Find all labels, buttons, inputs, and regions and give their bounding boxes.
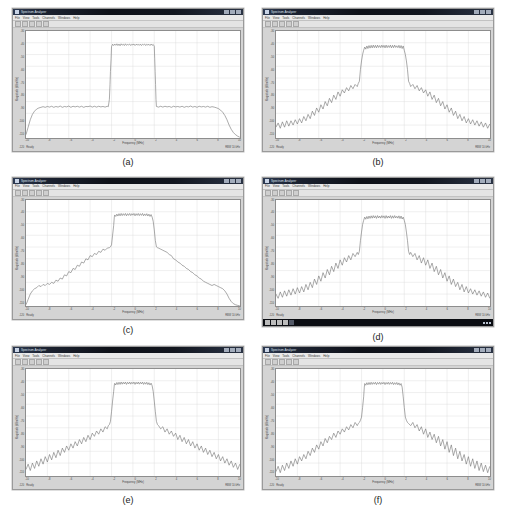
toolbar-b[interactable] — [263, 21, 493, 28]
trace-canvas-c[interactable] — [25, 199, 241, 308]
maximize-icon[interactable] — [230, 10, 235, 14]
window-controls[interactable] — [474, 179, 491, 183]
window-controls[interactable] — [224, 10, 241, 14]
window-controls[interactable] — [474, 10, 491, 14]
open-icon[interactable] — [265, 359, 271, 365]
browser-icon[interactable] — [277, 320, 282, 325]
menu-item-help[interactable]: Help — [73, 16, 79, 20]
trace-canvas-e[interactable] — [25, 368, 241, 477]
menu-item-channels[interactable]: Channels — [292, 184, 305, 188]
start-orb-icon[interactable] — [265, 320, 270, 325]
menu-item-view[interactable]: View — [273, 184, 279, 188]
menu-item-file[interactable]: File — [15, 354, 20, 358]
trace-canvas-a[interactable] — [25, 30, 241, 139]
minimize-icon[interactable] — [474, 179, 479, 183]
spectrum-analyzer-window-a[interactable]: Spectrum Analyzer File View Tools Channe… — [12, 8, 244, 152]
menu-item-windows[interactable]: Windows — [308, 16, 320, 20]
print-icon[interactable] — [279, 359, 285, 365]
explorer-icon[interactable] — [271, 320, 276, 325]
menu-item-windows[interactable]: Windows — [308, 184, 320, 188]
marker-icon[interactable] — [293, 190, 299, 196]
print-icon[interactable] — [29, 190, 35, 196]
save-icon[interactable] — [22, 21, 28, 27]
open-icon[interactable] — [15, 359, 21, 365]
menu-item-file[interactable]: File — [15, 184, 20, 188]
print-icon[interactable] — [29, 21, 35, 27]
toolbar-e[interactable] — [13, 359, 243, 366]
spectrum-analyzer-window-d[interactable]: Spectrum Analyzer File View Tools Channe… — [262, 177, 494, 328]
zoom-icon[interactable] — [286, 21, 292, 27]
trace-canvas-d[interactable] — [275, 199, 491, 308]
minimize-icon[interactable] — [474, 10, 479, 14]
menu-item-view[interactable]: View — [273, 354, 279, 358]
menu-item-channels[interactable]: Channels — [292, 354, 305, 358]
windows-taskbar[interactable] — [263, 319, 493, 326]
close-icon[interactable] — [236, 179, 241, 183]
save-icon[interactable] — [22, 359, 28, 365]
menu-item-view[interactable]: View — [23, 16, 29, 20]
menu-item-tools[interactable]: Tools — [32, 16, 39, 20]
menu-item-view[interactable]: View — [23, 354, 29, 358]
menu-item-help[interactable]: Help — [73, 354, 79, 358]
menu-item-file[interactable]: File — [265, 354, 270, 358]
save-icon[interactable] — [22, 190, 28, 196]
minimize-icon[interactable] — [474, 348, 479, 352]
toolbar-f[interactable] — [263, 359, 493, 366]
menu-item-windows[interactable]: Windows — [58, 184, 70, 188]
close-icon[interactable] — [236, 10, 241, 14]
zoom-icon[interactable] — [286, 359, 292, 365]
save-icon[interactable] — [272, 21, 278, 27]
menu-item-tools[interactable]: Tools — [32, 184, 39, 188]
zoom-icon[interactable] — [36, 359, 42, 365]
spectrum-analyzer-window-f[interactable]: Spectrum Analyzer File View Tools Channe… — [262, 346, 494, 490]
minimize-icon[interactable] — [224, 179, 229, 183]
menu-item-windows[interactable]: Windows — [308, 354, 320, 358]
toolbar-a[interactable] — [13, 21, 243, 28]
zoom-icon[interactable] — [286, 190, 292, 196]
clock-icon[interactable] — [489, 322, 491, 324]
marker-icon[interactable] — [43, 359, 49, 365]
menu-item-tools[interactable]: Tools — [282, 16, 289, 20]
trace-canvas-b[interactable] — [275, 30, 491, 139]
open-icon[interactable] — [265, 190, 271, 196]
open-icon[interactable] — [265, 21, 271, 27]
spectrum-analyzer-window-e[interactable]: Spectrum Analyzer File View Tools Channe… — [12, 346, 244, 490]
menu-item-file[interactable]: File — [265, 16, 270, 20]
window-controls[interactable] — [474, 348, 491, 352]
print-icon[interactable] — [29, 359, 35, 365]
print-icon[interactable] — [279, 190, 285, 196]
zoom-icon[interactable] — [36, 190, 42, 196]
print-icon[interactable] — [279, 21, 285, 27]
analyzer-icon[interactable] — [289, 320, 294, 325]
maximize-icon[interactable] — [480, 10, 485, 14]
close-icon[interactable] — [486, 179, 491, 183]
menu-item-help[interactable]: Help — [323, 354, 329, 358]
menu-item-file[interactable]: File — [15, 16, 20, 20]
network-icon[interactable] — [483, 322, 485, 324]
zoom-icon[interactable] — [36, 21, 42, 27]
menu-item-help[interactable]: Help — [73, 184, 79, 188]
maximize-icon[interactable] — [480, 179, 485, 183]
marker-icon[interactable] — [293, 359, 299, 365]
spectrum-analyzer-window-b[interactable]: Spectrum Analyzer File View Tools Channe… — [262, 8, 494, 152]
toolbar-c[interactable] — [13, 190, 243, 197]
menu-item-channels[interactable]: Channels — [42, 184, 55, 188]
menu-item-channels[interactable]: Channels — [292, 16, 305, 20]
window-controls[interactable] — [224, 348, 241, 352]
minimize-icon[interactable] — [224, 10, 229, 14]
save-icon[interactable] — [272, 359, 278, 365]
maximize-icon[interactable] — [230, 348, 235, 352]
menu-item-windows[interactable]: Windows — [58, 354, 70, 358]
close-icon[interactable] — [486, 348, 491, 352]
open-icon[interactable] — [15, 190, 21, 196]
save-icon[interactable] — [272, 190, 278, 196]
close-icon[interactable] — [236, 348, 241, 352]
maximize-icon[interactable] — [480, 348, 485, 352]
menu-item-tools[interactable]: Tools — [32, 354, 39, 358]
menu-item-windows[interactable]: Windows — [58, 16, 70, 20]
menu-item-tools[interactable]: Tools — [282, 184, 289, 188]
marker-icon[interactable] — [43, 21, 49, 27]
menu-item-view[interactable]: View — [273, 16, 279, 20]
menu-item-file[interactable]: File — [265, 184, 270, 188]
open-icon[interactable] — [15, 21, 21, 27]
